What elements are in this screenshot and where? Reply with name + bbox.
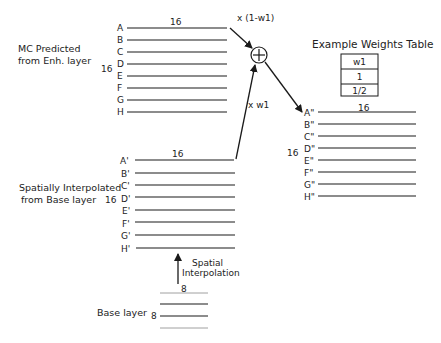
base-layer-block: Base layer 8 8 (97, 284, 208, 328)
interp-height-label: 16 (105, 195, 117, 205)
output-row-label: D" (304, 144, 315, 154)
output-row-label: G" (304, 180, 315, 190)
output-row-label: C" (304, 132, 314, 142)
enh-row-label: C (117, 47, 123, 57)
output-height-label: 16 (287, 148, 299, 158)
weights-table-cell: 1/2 (352, 86, 366, 96)
interp-row-label: F' (122, 219, 130, 229)
interp-to-sum-arrow (236, 65, 255, 159)
enh-to-sum-arrow (230, 28, 252, 48)
interp-row-label: H' (121, 244, 130, 254)
enh-row-label: F (117, 83, 122, 93)
interp-weight-label: x w1 (248, 100, 269, 110)
enh-row-label: G (117, 95, 124, 105)
enh-row-label: H (117, 107, 124, 117)
output-row-label: H" (304, 192, 315, 202)
interp-row-label: E' (122, 206, 130, 216)
interp-row-label: C' (121, 181, 130, 191)
output-block: 16 16 A" B" C" D" E" F" G" H" (287, 103, 416, 202)
weights-table-header: w1 (353, 57, 366, 67)
enh-width-label: 16 (170, 17, 182, 27)
interp-caption-line1: Spatially Interpolated (19, 182, 121, 193)
diagram-canvas: MC Predicted from Enh. layer 16 16 A B C… (0, 0, 441, 343)
weights-table: Example Weights Table w1 1 1/2 (312, 38, 433, 96)
interp-row-label: B' (121, 169, 130, 179)
enh-layer-block: MC Predicted from Enh. layer 16 16 A B C… (18, 17, 227, 117)
enh-row-label: E (117, 71, 123, 81)
upsample-label-line1: Spatial (192, 258, 223, 268)
weights-table-title: Example Weights Table (312, 38, 433, 50)
output-row-label: A" (304, 108, 314, 118)
interp-row-label: G' (121, 231, 130, 241)
enh-caption-line2: from Enh. layer (18, 55, 91, 66)
enh-row-label: A (117, 23, 124, 33)
sum-to-output-arrow (265, 62, 302, 112)
enh-caption-line1: MC Predicted (18, 43, 80, 54)
enh-row-label: D (117, 59, 124, 69)
upsample-label-line2: Interpolation (182, 268, 240, 278)
enh-height-label: 16 (101, 64, 113, 74)
interp-row-label: D' (121, 194, 130, 204)
enh-weight-label: x (1-w1) (237, 13, 274, 23)
output-row-label: E" (304, 156, 314, 166)
base-caption: Base layer (97, 307, 147, 318)
output-row-label: F" (304, 168, 313, 178)
base-width-label: 8 (181, 284, 187, 294)
spatial-interpolation-step: Spatial Interpolation (178, 254, 240, 284)
summation-node: x (1-w1) x w1 (230, 13, 302, 159)
base-height-label: 8 (151, 311, 157, 321)
interp-width-label: 16 (172, 149, 184, 159)
interp-block: Spatially Interpolated from Base layer 1… (19, 149, 235, 254)
interp-row-label: A' (120, 156, 129, 166)
interp-caption-line2: from Base layer (21, 194, 96, 205)
enh-row-label: B (117, 35, 123, 45)
weights-table-cell: 1 (357, 72, 363, 82)
output-row-label: B" (304, 120, 314, 130)
